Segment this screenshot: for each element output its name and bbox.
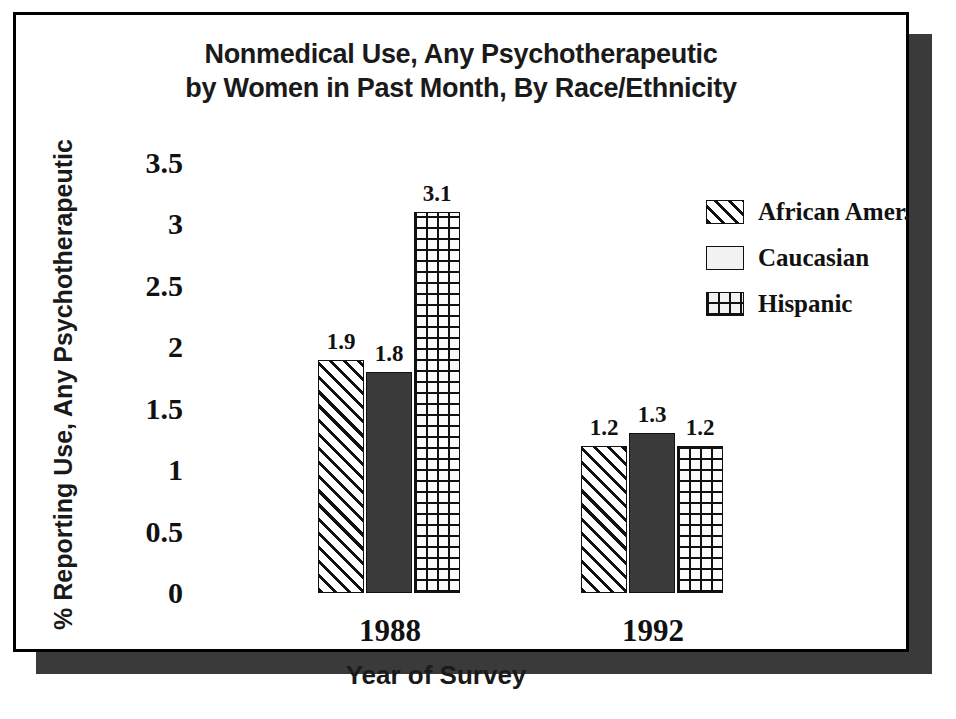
y-axis-tick-label: 0.5 xyxy=(123,515,183,549)
legend-item: African Amer. xyxy=(706,193,910,230)
legend-item: Caucasian xyxy=(706,239,910,276)
bar-group: 1.21.31.2 xyxy=(581,15,725,655)
y-axis-tick-label: 2.5 xyxy=(123,269,183,303)
bar-caucasian-1988: 1.8 xyxy=(366,372,412,593)
bar-value-label: 1.9 xyxy=(327,329,356,355)
y-axis-title: % Reporting Use, Any Psychotherapeutic xyxy=(49,135,78,635)
x-axis-title: Year of Survey xyxy=(156,660,716,691)
chart-legend: African Amer.CaucasianHispanic xyxy=(706,193,910,331)
bar-value-label: 1.3 xyxy=(638,402,667,428)
y-axis-tick-label: 3.5 xyxy=(123,146,183,180)
legend-label: African Amer. xyxy=(758,198,910,226)
x-axis-category-label: 1992 xyxy=(622,613,684,649)
bar-african-amer-1988: 1.9 xyxy=(318,360,364,593)
legend-item: Hispanic xyxy=(706,285,910,322)
bar-hispanic-1992: 1.2 xyxy=(677,446,723,593)
y-axis-tick-label: 3 xyxy=(123,207,183,241)
legend-swatch-diagonal-hatch xyxy=(706,200,744,224)
legend-label: Hispanic xyxy=(758,290,852,318)
bar-value-label: 1.2 xyxy=(590,415,619,441)
y-axis-tick-labels: 00.511.522.533.5 xyxy=(121,15,183,655)
bar-value-label: 3.1 xyxy=(423,181,452,207)
y-axis-tick-label: 1 xyxy=(123,453,183,487)
legend-swatch-grid-crosshatch xyxy=(706,292,744,316)
plot-area: 1.91.83.119881.21.31.21992 xyxy=(196,15,696,655)
bar-african-amer-1992: 1.2 xyxy=(581,446,627,593)
bar-hispanic-1988: 3.1 xyxy=(414,212,460,593)
bar-value-label: 1.2 xyxy=(686,415,715,441)
y-axis-tick-label: 0 xyxy=(123,576,183,610)
chart-figure-frame: Nonmedical Use, Any Psychotherapeutic by… xyxy=(13,12,909,652)
legend-swatch-solid-dark xyxy=(706,246,744,270)
y-axis-tick-label: 1.5 xyxy=(123,392,183,426)
legend-label: Caucasian xyxy=(758,244,869,272)
bar-caucasian-1992: 1.3 xyxy=(629,433,675,593)
y-axis-tick-label: 2 xyxy=(123,330,183,364)
x-axis-category-label: 1988 xyxy=(359,613,421,649)
bar-group: 1.91.83.1 xyxy=(318,15,462,655)
bar-value-label: 1.8 xyxy=(375,341,404,367)
